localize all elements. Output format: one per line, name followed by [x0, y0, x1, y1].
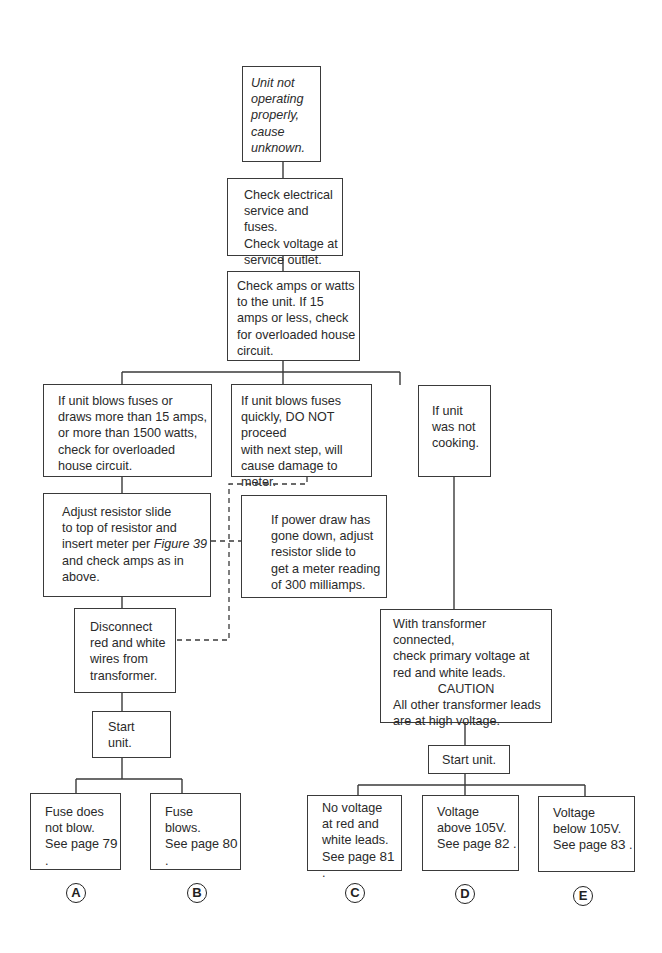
outcome-a-circle-label: A — [66, 883, 86, 903]
start-text-line: unknown. — [251, 140, 320, 156]
start-text-line: properly, — [251, 107, 320, 123]
start-unit-left-box: Start unit. — [92, 711, 171, 758]
check-amps-box: Check amps or watts to the unit. If 15 a… — [227, 271, 360, 361]
transformer-line: check primary voltage at — [393, 648, 551, 664]
adjust-resistor-line: and check amps as in — [62, 553, 210, 569]
branch-blows-fuses-line: house circuit. — [58, 458, 211, 474]
branch-blows-quickly-line: quickly, DO NOT proceed — [241, 409, 371, 441]
page-number: 81 — [379, 849, 394, 864]
outcome-d-line: above 105V. — [437, 820, 518, 836]
figure-reference: Figure 39 — [154, 537, 207, 551]
outcome-c-box: No voltage at red and white leads. See p… — [307, 795, 402, 871]
outcome-e-circle-label: E — [573, 886, 593, 906]
adjust-resistor-line: insert meter per Figure 39 — [62, 536, 210, 552]
branch-not-cooking-line: If unit — [432, 403, 490, 419]
branch-blows-quickly-line: If unit blows fuses — [241, 393, 371, 409]
check-service-line: service and fuses. — [244, 203, 342, 235]
outcome-d-box: Voltage above 105V. See page 82 . — [422, 795, 519, 871]
start-unit-right-box: Start unit. — [428, 745, 510, 774]
power-draw-line: of 300 milliamps. — [271, 577, 386, 593]
transformer-line: red and white leads. — [393, 665, 551, 681]
power-draw-line: gone down, adjust — [271, 528, 386, 544]
power-draw-box: If power draw has gone down, adjust resi… — [241, 495, 387, 598]
check-service-box: Check electrical service and fuses. Chec… — [227, 178, 343, 256]
outcome-c-line: No voltage — [322, 800, 401, 816]
disconnect-line: transformer. — [90, 668, 175, 684]
disconnect-line: Disconnect — [90, 619, 175, 635]
check-service-line: Check voltage at — [244, 236, 342, 252]
branch-blows-quickly-box: If unit blows fuses quickly, DO NOT proc… — [231, 384, 372, 477]
start-text-line: Unit not — [251, 75, 320, 91]
transformer-line: With transformer connected, — [393, 616, 551, 648]
see-page-label: See page — [437, 837, 491, 851]
disconnect-box: Disconnect red and white wires from tran… — [74, 608, 176, 693]
see-page-label: See page — [553, 838, 607, 852]
outcome-e-see-page[interactable]: See page 83 . — [553, 837, 634, 853]
check-amps-line: Check amps or watts — [237, 278, 359, 294]
branch-not-cooking-box: If unit was not cooking. — [418, 385, 491, 477]
page-number: 82 — [494, 836, 509, 851]
page-number: 79 — [102, 836, 117, 851]
page-number: 80 — [222, 836, 237, 851]
outcome-d-line: Voltage — [437, 804, 518, 820]
outcome-c-line: at red and — [322, 816, 401, 832]
outcome-b-see-page[interactable]: See page 80 . — [165, 836, 240, 868]
outcome-b-circle-label: B — [187, 883, 207, 903]
adjust-resistor-text: insert meter per — [62, 537, 150, 551]
page-number: 83 — [610, 837, 625, 852]
outcome-e-line: below 105V. — [553, 821, 634, 837]
start-unit-left-line: Start — [108, 719, 170, 735]
check-amps-line: amps or less, check — [237, 310, 359, 326]
branch-blows-fuses-line: If unit blows fuses or — [58, 393, 211, 409]
start-unit-right-line: Start unit. — [429, 752, 509, 768]
transformer-check-box: With transformer connected, check primar… — [380, 609, 552, 723]
branch-blows-fuses-box: If unit blows fuses or draws more than 1… — [43, 384, 212, 477]
adjust-resistor-box: Adjust resistor slide to top of resistor… — [43, 493, 211, 597]
adjust-resistor-line: Adjust resistor slide — [62, 504, 210, 520]
branch-blows-quickly-line: with next step, will — [241, 442, 371, 458]
outcome-a-see-page[interactable]: See page 79 . — [45, 836, 120, 868]
see-page-label: See page — [165, 837, 219, 851]
branch-not-cooking-line: was not — [432, 419, 490, 435]
outcome-a-box: Fuse does not blow. See page 79 . — [30, 793, 121, 870]
check-amps-line: for overloaded house — [237, 327, 359, 343]
disconnect-line: red and white — [90, 635, 175, 651]
transformer-line: are at high voltage. — [393, 713, 551, 729]
power-draw-line: get a meter reading — [271, 561, 386, 577]
outcome-b-line: Fuse — [165, 804, 240, 820]
branch-blows-fuses-line: check for overloaded — [58, 442, 211, 458]
outcome-e-box: Voltage below 105V. See page 83 . — [538, 796, 635, 872]
branch-blows-fuses-line: or more than 1500 watts, — [58, 425, 211, 441]
check-service-line: service outlet. — [244, 252, 342, 268]
outcome-e-line: Voltage — [553, 805, 634, 821]
outcome-c-circle-label: C — [345, 883, 365, 903]
check-amps-line: to the unit. If 15 — [237, 294, 359, 310]
branch-blows-quickly-line: cause damage to meter. — [241, 458, 371, 490]
see-page-label: See page — [45, 837, 99, 851]
branch-blows-fuses-line: draws more than 15 amps, — [58, 409, 211, 425]
branch-not-cooking-line: cooking. — [432, 435, 490, 451]
caution-label: CAUTION — [393, 681, 551, 697]
see-page-label: See page — [322, 850, 376, 864]
disconnect-line: wires from — [90, 651, 175, 667]
outcome-d-see-page[interactable]: See page 82 . — [437, 836, 518, 852]
start-box: Unit not operating properly, cause unkno… — [242, 66, 321, 162]
start-text-line: cause — [251, 124, 320, 140]
adjust-resistor-line: above. — [62, 569, 210, 585]
power-draw-line: resistor slide to — [271, 544, 386, 560]
power-draw-line: If power draw has — [271, 512, 386, 528]
outcome-a-line: not blow. — [45, 820, 120, 836]
start-text-line: operating — [251, 91, 320, 107]
check-amps-line: circuit. — [237, 343, 359, 359]
outcome-b-line: blows. — [165, 820, 240, 836]
outcome-c-see-page[interactable]: See page 81 . — [322, 849, 401, 881]
transformer-line: All other transformer leads — [393, 697, 551, 713]
outcome-d-circle-label: D — [455, 884, 475, 904]
outcome-a-line: Fuse does — [45, 804, 120, 820]
start-unit-left-line: unit. — [108, 735, 170, 751]
adjust-resistor-line: to top of resistor and — [62, 520, 210, 536]
check-service-line: Check electrical — [244, 187, 342, 203]
outcome-b-box: Fuse blows. See page 80 . — [150, 793, 241, 870]
outcome-c-line: white leads. — [322, 832, 401, 848]
